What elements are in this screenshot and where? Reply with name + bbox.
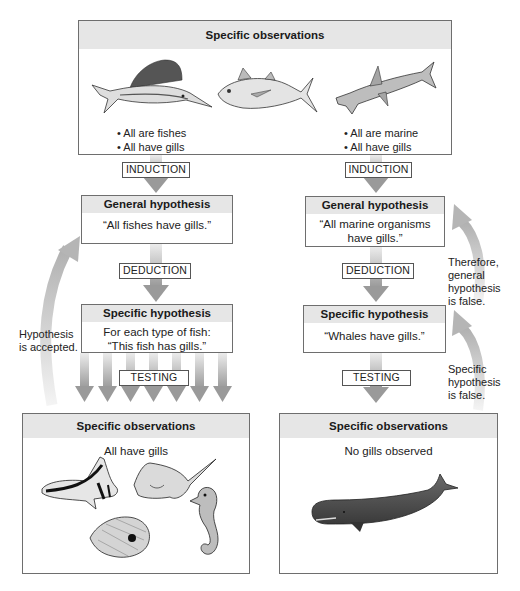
top-right-bullets: • All are marine • All have gills <box>344 126 418 154</box>
top-observations-title: Specific observations <box>79 21 451 49</box>
specific-hypothesis-title-right: Specific hypothesis <box>304 306 445 323</box>
specific-hypothesis-text-right: “Whales have gills.” <box>304 329 445 343</box>
induction-label-right: INDUCTION <box>345 162 412 178</box>
testing-label-right: TESTING <box>342 370 411 386</box>
hypothesis-accepted-note: Hypothesis is accepted. <box>19 328 78 354</box>
specific-hypothesis-line2-left: “This fish has gills.” <box>82 339 232 353</box>
specific-hypothesis-title-left: Specific hypothesis <box>82 305 232 322</box>
induction-label-left: INDUCTION <box>122 162 190 178</box>
general-hypothesis-text-left: “All fishes have gills.” <box>82 218 232 232</box>
general-hypothesis-false-note: Therefore, general hypothesis is false. <box>448 256 501 308</box>
specific-hypothesis-box-right: Specific hypothesis “Whales have gills.” <box>303 305 446 353</box>
general-hypothesis-title-right: General hypothesis <box>306 197 444 214</box>
accept-feedback-arrow <box>46 236 80 405</box>
observations-title-right: Specific observations <box>280 414 497 438</box>
top-left-bullets: • All are fishes • All have gills <box>117 126 186 154</box>
sperm-whale-illustration <box>308 472 468 542</box>
deduction-label-right: DEDUCTION <box>342 263 414 279</box>
general-hypothesis-line2-right: have gills.” <box>306 231 444 245</box>
seahorse-illustration <box>188 483 228 561</box>
moorish-idol-illustration <box>38 453 128 513</box>
general-hypothesis-title-left: General hypothesis <box>82 196 232 213</box>
specific-hypothesis-box-left: Specific hypothesis For each type of fis… <box>81 304 233 353</box>
general-hypothesis-box-left: General hypothesis “All fishes have gill… <box>81 195 233 244</box>
specific-hypothesis-false-note: Specific hypothesis is false. <box>448 363 501 402</box>
tuna-illustration <box>213 60 323 118</box>
deduction-label-left: DEDUCTION <box>119 263 191 279</box>
specific-hypothesis-line1-left: For each type of fish: <box>82 325 232 339</box>
hammerhead-shark-illustration <box>330 60 440 118</box>
testing-label-left: TESTING <box>119 370 189 386</box>
general-hypothesis-line1-right: “All marine organisms <box>306 217 444 231</box>
general-hypothesis-box-right: General hypothesis “All marine organisms… <box>305 196 445 247</box>
butterflyfish-illustration <box>88 510 158 562</box>
observations-title-left: Specific observations <box>23 414 249 438</box>
sailfish-illustration <box>90 55 220 120</box>
observations-text-right: No gills observed <box>280 438 497 458</box>
